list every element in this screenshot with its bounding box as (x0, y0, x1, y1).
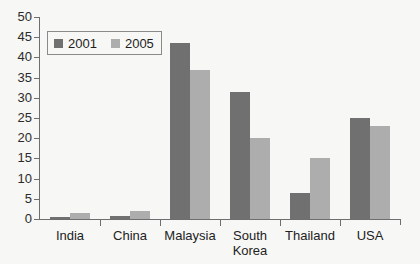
y-axis-tick-label: 15 (2, 151, 32, 164)
category-divider-tick (220, 219, 221, 226)
category-divider-tick (100, 219, 101, 226)
category-divider-tick (340, 219, 341, 226)
legend-label-2005: 2005 (125, 37, 154, 50)
bar-south-korea-2001 (230, 92, 250, 219)
y-axis-tick-label: 35 (2, 71, 32, 84)
bar-china-2001 (110, 216, 130, 219)
legend-label-2001: 2001 (68, 37, 97, 50)
y-axis-tick-label: 20 (2, 131, 32, 144)
y-axis-tick-label: 5 (2, 192, 32, 205)
bar-malaysia-2001 (170, 43, 190, 219)
legend-entry-2001: 2001 (54, 37, 97, 50)
category-label-south-korea: South Korea (220, 228, 280, 258)
y-axis-tick-label: 10 (2, 172, 32, 185)
category-divider-tick (280, 219, 281, 226)
y-axis-tick-label: 40 (2, 50, 32, 63)
bar-india-2001 (50, 217, 70, 219)
legend-swatch-2005 (111, 39, 120, 48)
chart-legend: 2001 2005 (47, 31, 162, 55)
y-axis-tick-label: 45 (2, 30, 32, 43)
y-axis-tick-label: 25 (2, 111, 32, 124)
legend-entry-2005: 2005 (111, 37, 154, 50)
y-axis-tick-label: 30 (2, 91, 32, 104)
y-axis-tick-labels: 05101520253035404550 (0, 0, 32, 264)
legend-swatch-2001 (54, 39, 63, 48)
y-axis-tick-label: 0 (2, 212, 32, 225)
category-label-malaysia: Malaysia (160, 228, 220, 243)
bar-china-2005 (130, 211, 150, 219)
category-divider-tick (160, 219, 161, 226)
bar-usa-2001 (350, 118, 370, 219)
bar-usa-2005 (370, 126, 390, 219)
bar-chart: 05101520253035404550 IndiaChinaMalaysiaS… (0, 0, 420, 264)
category-label-usa: USA (340, 228, 400, 243)
category-label-india: India (40, 228, 100, 243)
y-axis-tick-label: 50 (2, 10, 32, 23)
bar-india-2005 (70, 213, 90, 219)
category-label-china: China (100, 228, 160, 243)
bar-thailand-2005 (310, 158, 330, 219)
bar-south-korea-2005 (250, 138, 270, 219)
x-axis-end-cap (400, 219, 401, 225)
category-label-thailand: Thailand (280, 228, 340, 243)
bar-thailand-2001 (290, 193, 310, 219)
y-axis-tick (34, 219, 40, 220)
bar-malaysia-2005 (190, 70, 210, 219)
